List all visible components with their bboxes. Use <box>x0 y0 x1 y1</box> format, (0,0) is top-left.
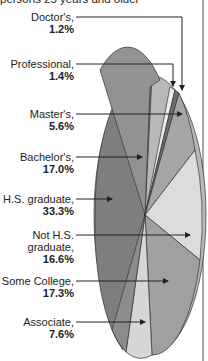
label-name: H.S. graduate, <box>3 193 74 205</box>
label-name: Professional, <box>10 58 74 70</box>
label-name: Not H.S. graduate, <box>28 229 74 253</box>
label-pct: 5.6% <box>30 120 74 132</box>
label-pct: 17.0% <box>20 163 74 175</box>
label-some-college: Some College, 17.3% <box>2 275 74 299</box>
pie-chart <box>0 0 208 361</box>
label-professional: Professional, 1.4% <box>10 58 74 82</box>
label-name: Some College, <box>2 275 74 287</box>
label-associate: Associate, 7.6% <box>23 316 74 340</box>
label-pct: 16.6% <box>14 253 74 265</box>
label-pct: 1.2% <box>31 23 74 35</box>
label-pct: 7.6% <box>23 328 74 340</box>
label-masters: Master's, 5.6% <box>30 108 74 132</box>
label-doctors: Doctor's, 1.2% <box>31 11 74 35</box>
label-bachelors: Bachelor's, 17.0% <box>20 151 74 175</box>
label-pct: 1.4% <box>10 70 74 82</box>
pie-slices <box>95 47 202 358</box>
label-name: Bachelor's, <box>20 151 74 163</box>
label-pct: 17.3% <box>2 287 74 299</box>
label-pct: 33.3% <box>3 205 74 217</box>
label-name: Doctor's, <box>31 11 74 23</box>
label-hs-graduate: H.S. graduate, 33.3% <box>3 193 74 217</box>
label-name: Master's, <box>30 108 74 120</box>
label-not-hs-graduate: Not H.S. graduate, 16.6% <box>14 229 74 265</box>
label-name: Associate, <box>23 316 74 328</box>
